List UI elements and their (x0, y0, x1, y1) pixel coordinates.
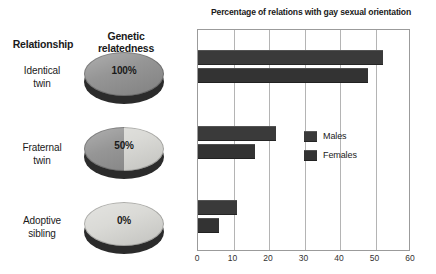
x-tick-label: 60 (398, 253, 422, 263)
relationship-label-fraternal-twin: Fraternaltwin (4, 142, 80, 167)
legend-swatch-icon (304, 131, 317, 142)
bar-males-fraternal-twin (198, 126, 276, 141)
bar-chart-panel: Percentage of relations with gay sexual … (186, 0, 436, 274)
relatedness-disc-identical-twin: 100% (84, 52, 164, 108)
column-header-genetic-line1: Genetic (107, 30, 144, 42)
column-header-genetic-relatedness: Geneticrelatedness (78, 30, 174, 54)
legend-item-males[interactable]: Males (304, 128, 388, 144)
chart-title: Percentage of relations with gay sexual … (186, 7, 436, 17)
relatedness-disc-fraternal-twin: 50% (84, 127, 164, 183)
relationship-label-line: Adoptive (23, 215, 61, 226)
relationship-label-line: twin (33, 78, 50, 89)
relatedness-value-label: 50% (84, 140, 164, 151)
relationship-label-line: Identical (24, 65, 60, 76)
relatedness-value-label: 0% (84, 215, 164, 226)
x-tick-label: 40 (327, 253, 351, 263)
relationship-label-line: sibling (28, 228, 56, 239)
legend-label: Males (323, 131, 347, 141)
relationship-label-line: twin (33, 155, 50, 166)
x-tick-label: 20 (256, 253, 280, 263)
relationship-panel: Relationship Geneticrelatedness Identica… (0, 0, 186, 274)
column-header-relationship: Relationship (6, 38, 80, 50)
legend-item-females[interactable]: Females (304, 147, 388, 163)
bar-females-identical-twin (198, 68, 368, 83)
x-tick-label: 0 (185, 253, 209, 263)
x-tick-label: 10 (221, 253, 245, 263)
bar-males-adoptive-sibling (198, 200, 237, 215)
chart-legend: MalesFemales (304, 128, 388, 166)
relationship-label-identical-twin: Identicaltwin (4, 65, 80, 90)
bar-males-identical-twin (198, 50, 383, 65)
x-tick-label: 50 (363, 253, 387, 263)
legend-swatch-icon (304, 150, 317, 161)
relationship-label-line: Fraternal (22, 142, 61, 153)
x-axis-tick-labels: 0102030405060 (197, 253, 410, 267)
legend-label: Females (323, 150, 357, 160)
bar-females-adoptive-sibling (198, 218, 219, 233)
relatedness-value-label: 100% (84, 65, 164, 76)
relationship-label-adoptive-sibling: Adoptivesibling (4, 215, 80, 240)
x-tick-label: 30 (292, 253, 316, 263)
relatedness-disc-adoptive-sibling: 0% (84, 202, 164, 258)
bar-females-fraternal-twin (198, 144, 255, 159)
